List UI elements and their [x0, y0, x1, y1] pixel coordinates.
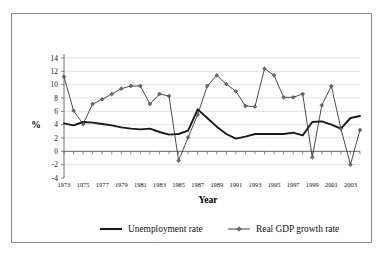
- y-tick-label: 2: [54, 134, 58, 143]
- data-point-marker: [310, 155, 314, 159]
- legend-marker-icon: [237, 227, 241, 231]
- x-tick-label: 1985: [172, 181, 185, 188]
- data-point-marker: [358, 128, 362, 132]
- x-axis-title: Year: [198, 194, 218, 205]
- x-tick-label: 1995: [268, 181, 281, 188]
- y-tick-group: -4-202468101214: [51, 54, 64, 183]
- y-tick-label: 4: [54, 120, 58, 129]
- chart-svg: -4-202468101214 197319751977197919811983…: [12, 14, 373, 244]
- x-tick-label: 2003: [344, 181, 357, 188]
- y-tick-label: 0: [54, 147, 58, 156]
- x-tick-group: 1973197519771979198119831985198719891991…: [58, 151, 360, 188]
- y-tick-label: 10: [51, 80, 59, 89]
- x-tick-label: 1973: [58, 181, 71, 188]
- data-point-marker: [91, 102, 95, 106]
- x-tick-label: 1993: [249, 181, 262, 188]
- x-tick-label: 1989: [210, 181, 223, 188]
- x-tick-label: 1977: [96, 181, 110, 188]
- x-tick-label: 1983: [153, 181, 166, 188]
- data-point-marker: [320, 103, 324, 107]
- x-tick-label: 1981: [134, 181, 147, 188]
- data-point-marker: [110, 92, 114, 96]
- y-tick-label: 14: [51, 54, 59, 63]
- series-line-unemployment: [64, 109, 360, 138]
- data-point-marker: [349, 163, 353, 167]
- x-tick-label: 1979: [115, 181, 128, 188]
- data-point-marker: [62, 75, 66, 79]
- data-point-marker: [177, 159, 181, 163]
- y-tick-label: 8: [54, 94, 58, 103]
- data-point-marker: [282, 95, 286, 99]
- chart-container: -4-202468101214 197319751977197919811983…: [11, 13, 372, 243]
- plot-area: -4-202468101214 197319751977197919811983…: [12, 14, 373, 244]
- x-tick-label: 1975: [77, 181, 90, 188]
- gridlines-group: [64, 58, 360, 165]
- x-tick-label: 1999: [306, 181, 319, 188]
- axis-lines-group: [64, 54, 360, 178]
- x-tick-label: 2001: [325, 181, 338, 188]
- x-tick-label: 1997: [287, 181, 301, 188]
- y-tick-label: -2: [52, 160, 58, 169]
- y-tick-label: 6: [54, 107, 58, 116]
- legend-label-1: Real GDP growth rate: [256, 224, 339, 234]
- legend-label-0: Unemployment rate: [128, 224, 203, 234]
- series-line-gdp: [64, 69, 360, 165]
- data-point-marker: [301, 92, 305, 96]
- y-axis-title: %: [31, 119, 41, 130]
- legend-group: Unemployment rateReal GDP growth rate: [100, 224, 339, 234]
- data-point-marker: [119, 87, 123, 91]
- x-tick-label: 1987: [191, 181, 205, 188]
- data-point-marker: [253, 105, 257, 109]
- data-point-marker: [186, 135, 190, 139]
- data-point-marker: [291, 95, 295, 99]
- x-tick-label: 1991: [229, 181, 242, 188]
- data-point-marker: [167, 94, 171, 98]
- y-tick-label: 12: [51, 67, 59, 76]
